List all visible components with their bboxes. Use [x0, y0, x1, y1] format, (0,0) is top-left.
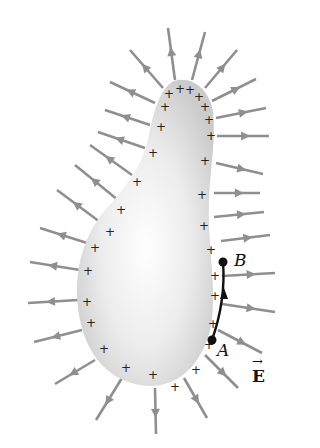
point-b-dot: [219, 258, 228, 267]
positive-charge-mark: +: [204, 113, 214, 127]
field-line-arrow: [130, 50, 163, 88]
field-line-arrow: [192, 32, 205, 80]
point-b-label: B: [234, 250, 247, 270]
positive-charge-mark: +: [164, 87, 174, 101]
field-line-arrow: [221, 234, 270, 243]
positive-charge-mark: +: [206, 129, 216, 143]
field-line-arrow: [212, 79, 256, 101]
field-line-arrow: [55, 360, 95, 384]
conductor-body: [77, 80, 214, 386]
field-line-arrow: [205, 50, 237, 88]
field-line-arrow: [105, 110, 150, 125]
electric-field-label: → E: [252, 366, 265, 386]
positive-charge-mark: +: [200, 154, 210, 168]
positive-charge-mark: +: [210, 289, 220, 303]
positive-charge-mark: +: [156, 120, 166, 134]
field-line-arrow: [96, 378, 122, 420]
field-line-arrow: [110, 82, 155, 103]
positive-charge-mark: +: [175, 82, 185, 96]
positive-charge-mark: +: [90, 241, 100, 255]
field-line-arrow: [75, 165, 118, 200]
field-line-arrow: [34, 330, 82, 342]
field-line-arrow: [222, 270, 275, 279]
positive-charge-mark: +: [82, 295, 92, 309]
field-line-arrow: [214, 189, 260, 198]
field-line-arrow: [222, 303, 275, 312]
point-a-label: A: [217, 340, 229, 360]
positive-charge-mark: +: [105, 225, 115, 239]
positive-charge-mark: +: [148, 146, 158, 160]
positive-charge-mark: +: [210, 269, 220, 283]
positive-charge-mark: +: [132, 175, 142, 189]
path-direction-arrow-icon: [220, 288, 228, 299]
field-line-arrow: [40, 228, 87, 243]
positive-charge-mark: +: [116, 203, 126, 217]
positive-charge-mark: +: [199, 219, 209, 233]
positive-charge-mark: +: [170, 380, 180, 394]
field-line-arrow: [28, 297, 78, 306]
field-line-arrow: [216, 108, 266, 118]
field-line-arrow: [151, 388, 160, 434]
field-line-arrow: [184, 378, 207, 418]
point-a-dot: [208, 336, 217, 345]
positive-charge-mark: +: [121, 361, 131, 375]
positive-charge-mark: +: [206, 243, 216, 257]
field-line-arrow: [217, 132, 269, 141]
field-line-arrow: [214, 210, 264, 219]
vector-arrow-icon: →: [252, 354, 263, 369]
positive-charge-mark: +: [83, 264, 93, 278]
positive-charge-mark: +: [160, 100, 170, 114]
positive-charge-mark: +: [191, 363, 201, 377]
positive-charge-mark: +: [148, 368, 158, 382]
field-line-arrow: [216, 163, 263, 174]
field-line-arrow: [167, 28, 176, 80]
field-line-arrow: [98, 132, 145, 148]
field-symbol: E: [252, 366, 265, 386]
field-line-arrow: [90, 145, 132, 175]
positive-charge-mark: +: [200, 100, 210, 114]
positive-charge-mark: +: [197, 188, 207, 202]
positive-charge-mark: +: [99, 342, 109, 356]
positive-charge-mark: +: [86, 316, 96, 330]
field-line-arrow: [57, 190, 100, 222]
field-line-arrow: [30, 262, 80, 271]
